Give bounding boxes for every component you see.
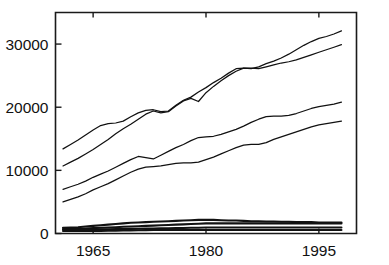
series-line-2: [63, 45, 341, 166]
x-tick-label: 1995: [302, 242, 336, 259]
y-tick-label: 20000: [5, 99, 48, 116]
x-tick-label: 1980: [189, 242, 224, 259]
y-axis-ticks: [56, 44, 62, 233]
series-line-8: [63, 230, 341, 231]
x-axis-ticks: [93, 13, 319, 234]
x-tick-label: 1965: [76, 242, 110, 259]
chart-container: 0100002000030000 196519801995: [0, 0, 389, 265]
y-tick-label: 0: [40, 225, 49, 242]
series-line-3: [63, 102, 341, 189]
data-series-group: [63, 31, 341, 231]
series-line-4: [63, 121, 341, 202]
y-tick-label: 30000: [5, 36, 48, 53]
line-chart: 0100002000030000 196519801995: [0, 0, 389, 265]
x-axis-tick-labels: 196519801995: [76, 242, 336, 259]
axis-frame: [56, 13, 357, 234]
plot-frame: [56, 13, 357, 234]
y-tick-label: 10000: [5, 162, 48, 179]
y-axis-tick-labels: 0100002000030000: [5, 36, 48, 242]
